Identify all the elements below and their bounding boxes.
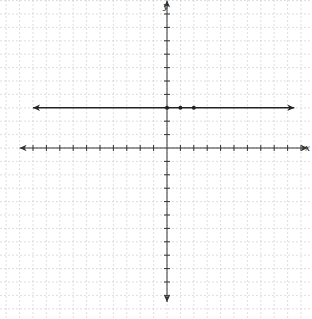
y-axis-label: y [162,1,169,11]
series [33,105,294,111]
x-axis-label: x [305,143,310,153]
data-point [165,106,169,110]
data-point [192,106,196,110]
coordinate-plane: x y [0,0,312,319]
data-point [178,106,182,110]
grid [0,0,312,319]
axes [20,1,308,303]
